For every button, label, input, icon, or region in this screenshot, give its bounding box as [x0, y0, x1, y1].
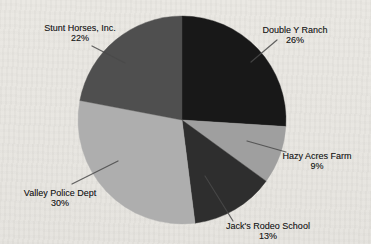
slice-percent: 26%: [262, 35, 327, 45]
scanned-page: Double Y Ranch 26% Hazy Acres Farm 9% Ja…: [0, 0, 371, 244]
slice-name: Valley Police Dept: [24, 188, 96, 198]
slice-percent: 22%: [44, 33, 116, 43]
slice-name: Jack's Rodeo School: [226, 221, 310, 231]
slice-percent: 9%: [282, 161, 351, 171]
slice-percent: 30%: [24, 198, 96, 208]
slice-name: Double Y Ranch: [262, 25, 327, 35]
slice-label-stunt-horses-inc: Stunt Horses, Inc. 22%: [44, 23, 116, 43]
slice-label-valley-police-dept: Valley Police Dept 30%: [24, 188, 96, 208]
slice-percent: 13%: [226, 231, 310, 241]
slice-label-jacks-rodeo-school: Jack's Rodeo School 13%: [226, 221, 310, 241]
slice-label-hazy-acres-farm: Hazy Acres Farm 9%: [282, 151, 351, 171]
slice-label-double-y-ranch: Double Y Ranch 26%: [262, 25, 327, 45]
slice-name: Stunt Horses, Inc.: [44, 23, 116, 33]
slice-name: Hazy Acres Farm: [282, 151, 351, 161]
